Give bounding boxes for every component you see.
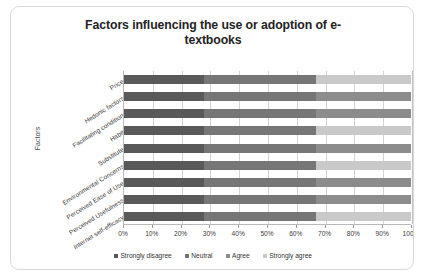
tickmark [353, 225, 354, 228]
x-axis-tick-label: 0% [118, 230, 128, 237]
tickmark [181, 225, 182, 228]
tickmark [123, 225, 124, 228]
tickmark [382, 225, 383, 228]
x-axis-tick-label: 90% [376, 230, 389, 237]
bar-row[interactable] [124, 92, 411, 101]
legend-swatch-icon [114, 254, 118, 258]
bar-row[interactable] [124, 212, 411, 221]
bar-segment[interactable] [204, 109, 316, 118]
bar-segment[interactable] [316, 212, 411, 221]
bar-segment[interactable] [204, 126, 316, 135]
bar-row[interactable] [124, 126, 411, 135]
bar-segment[interactable] [316, 109, 411, 118]
bar-segment[interactable] [316, 144, 411, 153]
bar-segment[interactable] [204, 92, 316, 101]
legend-item[interactable]: Strongly agree [263, 252, 312, 259]
x-axis-tick-label: 30% [203, 230, 216, 237]
legend-item[interactable]: Neutral [185, 252, 213, 259]
legend-label: Strongly disagree [120, 252, 171, 259]
bar-segment[interactable] [204, 178, 316, 187]
bar-segment[interactable] [124, 109, 204, 118]
bar-row[interactable] [124, 109, 411, 118]
legend-swatch-icon [226, 254, 230, 258]
x-axis-tick-label: 70% [318, 230, 331, 237]
x-axis-tick-label: 20% [174, 230, 187, 237]
x-axis-tick-label: 80% [347, 230, 360, 237]
legend-item[interactable]: Agree [226, 252, 250, 259]
x-axis-tick-label: 10% [145, 230, 158, 237]
legend-label: Agree [232, 252, 250, 259]
legend-swatch-icon [263, 254, 267, 258]
tickmark [296, 225, 297, 228]
bar-segment[interactable] [204, 144, 316, 153]
bar-segment[interactable] [204, 75, 316, 84]
bar-segment[interactable] [204, 161, 316, 170]
x-axis-tickmarks [123, 225, 411, 229]
chart-container: Factors influencing the use or adoption … [10, 6, 414, 270]
tickmark [267, 225, 268, 228]
bar-segment[interactable] [316, 161, 411, 170]
x-axis-tick-label: 60% [289, 230, 302, 237]
bar-segment[interactable] [124, 75, 204, 84]
legend-label: Neutral [191, 252, 212, 259]
bar-segment[interactable] [124, 161, 204, 170]
bar-row[interactable] [124, 195, 411, 204]
bar-segment[interactable] [124, 195, 204, 204]
bar-segment[interactable] [124, 178, 204, 187]
y-axis-tick-label: Internet self-efficacy [72, 214, 125, 251]
bar-segment[interactable] [316, 178, 411, 187]
x-axis-tick-label: 40% [232, 230, 245, 237]
x-axis-tick-labels: 0%10%20%30%40%50%60%70%80%90%100% [123, 230, 411, 242]
tickmark [152, 225, 153, 228]
bar-segment[interactable] [316, 92, 411, 101]
plot-area [123, 71, 411, 225]
bar-row[interactable] [124, 178, 411, 187]
y-axis-tick-labels: PriceHedonic factorsFacilitating conditi… [11, 7, 123, 257]
tickmark [209, 225, 210, 228]
tickmark [325, 225, 326, 228]
bar-segment[interactable] [316, 126, 411, 135]
legend-label: Strongly agree [269, 252, 312, 259]
chart-legend: Strongly disagreeNeutralAgreeStrongly ag… [11, 252, 414, 259]
gridline [412, 71, 413, 224]
bar-row[interactable] [124, 75, 411, 84]
legend-item[interactable]: Strongly disagree [114, 252, 172, 259]
tickmark [411, 225, 412, 228]
bar-segment[interactable] [124, 144, 204, 153]
legend-swatch-icon [185, 254, 189, 258]
tickmark [238, 225, 239, 228]
bar-segment[interactable] [204, 212, 316, 221]
bars-layer [124, 71, 411, 224]
bar-segment[interactable] [124, 92, 204, 101]
bar-segment[interactable] [316, 75, 411, 84]
x-axis-tick-label: 50% [260, 230, 273, 237]
bar-row[interactable] [124, 144, 411, 153]
bar-segment[interactable] [204, 195, 316, 204]
bar-segment[interactable] [124, 212, 204, 221]
bar-row[interactable] [124, 161, 411, 170]
bar-segment[interactable] [124, 126, 204, 135]
bar-segment[interactable] [316, 195, 411, 204]
x-axis-tick-label: 100% [403, 230, 414, 237]
